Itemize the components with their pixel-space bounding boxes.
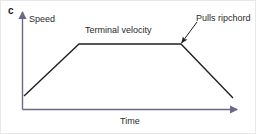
pulls-ripchord-annotation: Pulls ripchord [196, 13, 251, 23]
speed-curve [24, 44, 233, 98]
ripchord-annotation-arrow [182, 22, 198, 43]
terminal-velocity-annotation: Terminal velocity [85, 25, 152, 35]
x-axis-label: Time [120, 116, 140, 126]
y-axis-label: Speed [29, 14, 55, 24]
speed-time-graph-figure: c Speed Time Terminal velocity Pulls rip… [0, 0, 256, 134]
